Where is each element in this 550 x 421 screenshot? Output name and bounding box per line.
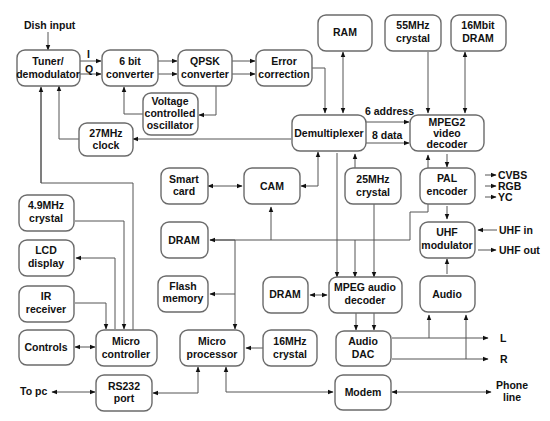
block-diagram: Tuner/ demodulator 6 bit converter QPSK … <box>0 0 550 421</box>
dram-audio-block: DRAM <box>263 277 308 313</box>
micro-controller-block: Micro controller <box>96 330 157 366</box>
pal-encoder-block: PAL encoder <box>420 168 475 204</box>
svg-text:display: display <box>28 257 64 269</box>
svg-text:decoder: decoder <box>345 294 386 306</box>
svg-text:Voltage: Voltage <box>151 95 188 107</box>
svg-text:decoder: decoder <box>427 138 468 150</box>
4.9mhz-crystal-block: 4.9MHz crystal <box>19 195 74 231</box>
svg-text:encoder: encoder <box>427 185 468 197</box>
svg-text:Modem: Modem <box>345 386 382 398</box>
vco-block: Voltage controlled oscillator <box>143 93 198 135</box>
svg-text:LCD: LCD <box>35 244 57 256</box>
svg-text:Audio: Audio <box>432 288 462 300</box>
uhf-out-label: UHF out <box>499 244 540 256</box>
cam-block: CAM <box>244 168 300 204</box>
svg-text:DRAM: DRAM <box>462 32 494 44</box>
address-bus-label: 6 address <box>365 105 414 117</box>
data-bus-label: 8 data <box>372 129 403 141</box>
svg-text:Error: Error <box>271 55 297 67</box>
16mbit-dram-block: 16Mbit DRAM <box>451 15 506 51</box>
25mhz-crystal-block: 25MHz crystal <box>345 168 401 204</box>
svg-text:controlled: controlled <box>145 107 196 119</box>
yc-label: YC <box>498 191 513 203</box>
svg-text:Smart: Smart <box>169 173 199 185</box>
27mhz-clock-block: 27MHz clock <box>79 123 133 156</box>
svg-text:controller: controller <box>102 348 150 360</box>
rs232-port-block: RS232 port <box>96 375 152 411</box>
svg-text:modulator: modulator <box>421 239 472 251</box>
uhf-in-label: UHF in <box>499 224 533 236</box>
svg-text:16MHz: 16MHz <box>273 335 306 347</box>
svg-text:Micro: Micro <box>112 335 140 347</box>
svg-text:DRAM: DRAM <box>168 234 200 246</box>
svg-text:card: card <box>173 185 195 197</box>
svg-text:CAM: CAM <box>260 180 284 192</box>
error-correction-block: Error correction <box>256 50 312 86</box>
ir-receiver-block: IR receiver <box>19 286 74 322</box>
audio-dac-block: Audio DAC <box>336 331 391 366</box>
svg-text:PAL: PAL <box>437 172 458 184</box>
svg-text:crystal: crystal <box>396 32 430 44</box>
svg-text:QPSK: QPSK <box>190 55 220 67</box>
svg-text:4.9MHz: 4.9MHz <box>28 199 64 211</box>
svg-text:6 bit: 6 bit <box>119 55 141 67</box>
r-output-label: R <box>500 353 508 365</box>
dram-left-block: DRAM <box>161 222 208 258</box>
qpsk-converter-block: QPSK converter <box>178 50 232 86</box>
svg-text:MPEG audio: MPEG audio <box>334 281 396 293</box>
svg-text:RS232: RS232 <box>108 380 140 392</box>
flash-memory-block: Flash memory <box>158 276 208 312</box>
svg-text:port: port <box>114 392 135 404</box>
6bit-converter-block: 6 bit converter <box>102 50 158 86</box>
16mhz-crystal-block: 16MHz crystal <box>263 330 317 366</box>
svg-text:Controls: Controls <box>24 341 67 353</box>
svg-text:receiver: receiver <box>26 303 66 315</box>
micro-processor-block: Micro processor <box>180 330 244 366</box>
svg-text:Micro: Micro <box>198 335 226 347</box>
mpeg-audio-decoder-block: MPEG audio decoder <box>329 277 402 313</box>
svg-text:oscillator: oscillator <box>147 119 194 131</box>
svg-text:55MHz: 55MHz <box>396 19 429 31</box>
svg-text:25MHz: 25MHz <box>356 173 389 185</box>
audio-block: Audio <box>420 276 475 312</box>
svg-text:demodulator: demodulator <box>16 68 80 80</box>
svg-text:correction: correction <box>258 68 309 80</box>
ram-block: RAM <box>318 15 372 51</box>
phone-line-label-1: Phone <box>496 379 528 391</box>
modem-block: Modem <box>335 375 391 410</box>
55mhz-crystal-block: 55MHz crystal <box>385 15 441 51</box>
svg-text:processor: processor <box>187 348 238 360</box>
svg-text:16Mbit: 16Mbit <box>461 19 495 31</box>
svg-text:RAM: RAM <box>333 26 357 38</box>
i-label: I <box>87 48 90 60</box>
svg-text:Demultiplexer: Demultiplexer <box>294 127 363 139</box>
dish-input-label: Dish input <box>24 19 76 31</box>
demultiplexer-block: Demultiplexer <box>292 115 366 151</box>
svg-text:clock: clock <box>93 139 120 151</box>
phone-line-label-2: line <box>503 391 521 403</box>
uhf-modulator-block: UHF modulator <box>420 222 475 258</box>
tuner-block: Tuner/ demodulator <box>16 50 80 86</box>
to-pc-label: To pc <box>20 385 47 397</box>
svg-text:DAC: DAC <box>352 348 375 360</box>
svg-text:crystal: crystal <box>356 186 390 198</box>
svg-text:crystal: crystal <box>273 348 307 360</box>
svg-text:converter: converter <box>106 68 154 80</box>
svg-text:memory: memory <box>163 292 204 304</box>
svg-text:27MHz: 27MHz <box>89 127 122 139</box>
l-output-label: L <box>500 332 507 344</box>
svg-text:Tuner/: Tuner/ <box>32 55 63 67</box>
lcd-display-block: LCD display <box>19 240 74 276</box>
svg-text:Flash: Flash <box>169 280 196 292</box>
mpeg2-video-decoder-block: MPEG2 video decoder <box>410 115 484 151</box>
smart-card-block: Smart card <box>161 168 208 204</box>
svg-text:IR: IR <box>41 290 52 302</box>
svg-text:UHF: UHF <box>436 226 458 238</box>
svg-text:Audio: Audio <box>348 335 378 347</box>
q-label: Q <box>85 63 93 75</box>
svg-text:crystal: crystal <box>29 212 63 224</box>
svg-text:DRAM: DRAM <box>269 288 301 300</box>
controls-block: Controls <box>19 330 74 365</box>
svg-text:converter: converter <box>181 68 229 80</box>
